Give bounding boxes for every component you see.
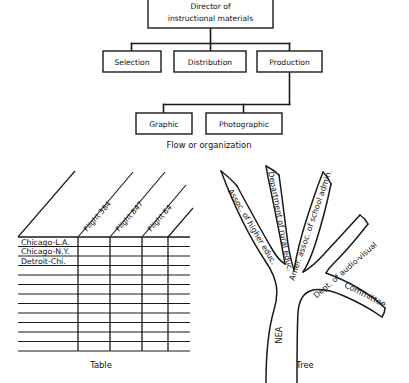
tree-branch-label-0: Assoc. of higher educ. (226, 187, 278, 266)
tree-branch-label-4: Committee (343, 280, 388, 310)
tree-branch-outline-left-outer (221, 171, 277, 383)
figure-root: Director of instructional materials Sele… (0, 0, 409, 383)
tree-branch-label-2: Amer. assoc. of school admin. (287, 169, 333, 282)
tree-diagram: Assoc. of higher educ. Department of rur… (0, 0, 409, 383)
tree-branch-tip-5 (382, 308, 385, 317)
tree-branch-tip-4 (360, 215, 368, 224)
tree-trunk-label: NEA (274, 326, 284, 343)
tree-branch-labels: Assoc. of higher educ. Department of rur… (226, 169, 388, 309)
tree-caption: Tree (295, 360, 313, 370)
tree-outline (221, 166, 385, 383)
